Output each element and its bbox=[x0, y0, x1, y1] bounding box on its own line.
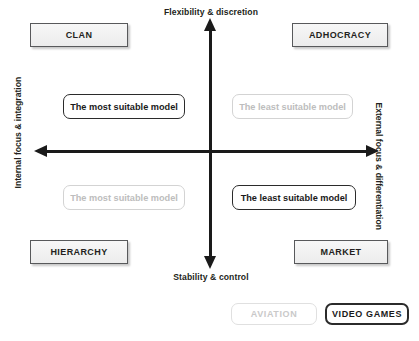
legend: AVIATION VIDEO GAMES bbox=[231, 303, 409, 325]
arrow-left-icon bbox=[34, 145, 47, 157]
quadrant-box-clan: CLAN bbox=[30, 23, 128, 47]
callout-market-least-suitable: The least suitable model bbox=[232, 185, 356, 210]
axis-label-right: External focus & differentiation bbox=[373, 103, 384, 189]
axis-label-bottom: Stability & control bbox=[158, 272, 264, 282]
vertical-axis-line bbox=[209, 29, 212, 259]
quadrant-box-market: MARKET bbox=[294, 240, 388, 264]
legend-item-video-games: VIDEO GAMES bbox=[325, 303, 409, 325]
callout-hierarchy-most-suitable: The most suitable model bbox=[63, 185, 185, 210]
legend-item-aviation: AVIATION bbox=[231, 303, 317, 325]
axis-label-left: Internal focus & integration bbox=[13, 103, 24, 189]
callout-clan-most-suitable: The most suitable model bbox=[63, 94, 185, 119]
quadrant-box-adhocracy: ADHOCRACY bbox=[292, 23, 388, 47]
diagram-canvas: Flexibility & discretion Stability & con… bbox=[0, 0, 419, 341]
arrow-down-icon bbox=[204, 256, 216, 269]
callout-adhocracy-least-suitable: The least suitable model bbox=[232, 94, 353, 119]
axis-label-top: Flexibility & discretion bbox=[155, 7, 267, 17]
arrow-up-icon bbox=[204, 18, 216, 31]
quadrant-box-hierarchy: HIERARCHY bbox=[30, 240, 128, 264]
horizontal-axis-line bbox=[46, 150, 368, 153]
